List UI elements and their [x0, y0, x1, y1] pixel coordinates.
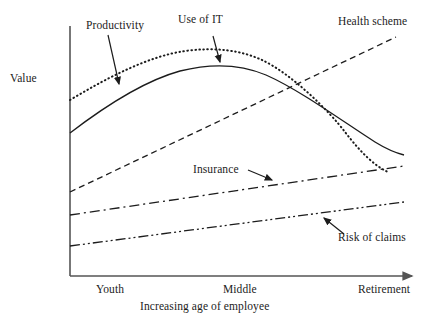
series-label-health-scheme: Health scheme	[338, 15, 407, 27]
series-label-insurance: Insurance	[193, 163, 239, 175]
annotation-arrow-productivity	[108, 35, 119, 84]
x-tick-label-youth: Youth	[96, 283, 124, 295]
x-tick-label-middle: Middle	[223, 283, 257, 295]
series-label-productivity: Productivity	[86, 19, 144, 31]
series-label-use-of-it: Use of IT	[178, 13, 223, 25]
chart-figure: Value Productivity Use of IT Health sche…	[0, 0, 442, 336]
series-line-productivity	[70, 49, 388, 172]
x-axis-title: Increasing age of employee	[140, 300, 269, 312]
y-axis-label: Value	[10, 72, 37, 84]
x-tick-label-retirement: Retirement	[358, 283, 410, 295]
annotation-arrow-insurance	[248, 170, 272, 180]
series-label-risk-of-claims: Risk of claims	[338, 231, 406, 243]
